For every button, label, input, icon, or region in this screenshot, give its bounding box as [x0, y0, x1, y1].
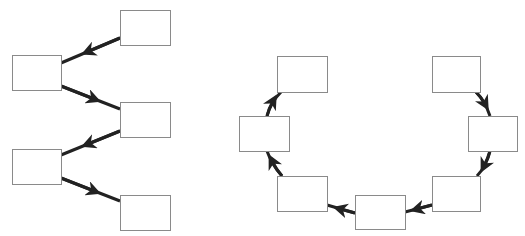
node-r4[interactable] [356, 196, 406, 230]
node-r2[interactable] [469, 117, 518, 152]
node-d[interactable] [13, 150, 62, 185]
node-r6[interactable] [240, 117, 290, 152]
edge-r5-to-r6-arrow [272, 161, 282, 176]
diagram-canvas [0, 0, 525, 236]
node-e[interactable] [121, 196, 171, 231]
edge-r6-to-r7-arrow [267, 101, 273, 116]
edge-b-to-c-arrow [61, 86, 94, 99]
edge-r4-to-r5-arrow [340, 209, 355, 213]
branching-tree-diagram [13, 11, 171, 231]
node-r1[interactable] [433, 57, 481, 93]
node-c[interactable] [121, 103, 171, 138]
node-r7[interactable] [278, 57, 328, 93]
edge-c-to-d-arrow [88, 131, 120, 144]
edge-r3-to-r4-arrow [417, 205, 432, 209]
node-r3[interactable] [433, 177, 481, 212]
node-b[interactable] [13, 56, 62, 91]
edge-r1-to-r2-arrow [476, 92, 485, 104]
edge-d-to-e-arrow [61, 178, 94, 191]
node-r5[interactable] [278, 177, 328, 212]
edge-a-to-b-arrow [88, 38, 120, 52]
node-a[interactable] [121, 11, 171, 46]
cycle-arc-diagram [240, 57, 518, 230]
